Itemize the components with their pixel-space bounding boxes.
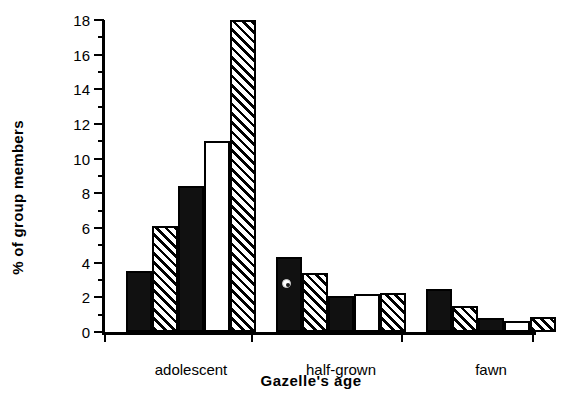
x-tick: [401, 333, 403, 342]
y-tick-major: [94, 88, 104, 90]
y-axis-title: % of group members: [0, 0, 34, 415]
y-tick-label: 16: [73, 46, 90, 63]
bar-adolescent-series-4: [204, 141, 230, 332]
bar-fawn-series-4: [504, 321, 530, 332]
y-tick-minor: [98, 175, 104, 177]
y-tick-major: [94, 331, 104, 333]
bar-fawn-series-1: [426, 289, 452, 332]
x-tick: [532, 333, 534, 342]
y-tick-minor: [98, 140, 104, 142]
y-tick-major: [94, 123, 104, 125]
y-tick-minor: [98, 314, 104, 316]
y-tick-major: [94, 19, 104, 21]
y-axis-title-text: % of group members: [9, 120, 26, 275]
y-tick-label: 18: [73, 12, 90, 29]
y-tick-label: 6: [82, 220, 90, 237]
y-tick-minor: [98, 279, 104, 281]
bar-half-grown-series-2: [302, 273, 328, 332]
y-tick-minor: [98, 71, 104, 73]
bar-fawn-series-2: [452, 306, 478, 332]
bar-adolescent-series-2: [152, 226, 178, 332]
y-tick-major: [94, 192, 104, 194]
x-tick: [251, 333, 253, 342]
y-tick-minor: [98, 36, 104, 38]
bar-chart-figure: % of group members 024681012141618 adole…: [0, 0, 572, 415]
y-tick-label: 2: [82, 289, 90, 306]
bar-adolescent-series-5: [230, 20, 256, 332]
bar-half-grown-series-4: [354, 294, 380, 332]
y-tick-minor: [98, 210, 104, 212]
y-tick-major: [94, 158, 104, 160]
bar-adolescent-series-1: [126, 271, 152, 332]
x-axis-title: Gazelle's age: [86, 372, 536, 389]
y-tick-label: 10: [73, 150, 90, 167]
y-tick-label: 0: [82, 324, 90, 341]
y-tick-major: [94, 296, 104, 298]
y-tick-major: [94, 54, 104, 56]
bar-fawn-series-3: [478, 318, 504, 332]
y-tick-label: 4: [82, 254, 90, 271]
bar-half-grown-series-1: [276, 257, 302, 332]
y-tick-major: [94, 227, 104, 229]
y-tick-minor: [98, 244, 104, 246]
y-tick-label: 8: [82, 185, 90, 202]
bar-half-grown-series-3: [328, 296, 354, 332]
y-tick-label: 14: [73, 81, 90, 98]
y-tick-label: 12: [73, 116, 90, 133]
x-axis-line: [102, 332, 536, 335]
y-tick-major: [94, 262, 104, 264]
plot-area: 024681012141618 adolescenthalf-grownfawn: [104, 20, 535, 332]
y-tick-minor: [98, 106, 104, 108]
bar-adolescent-series-3: [178, 186, 204, 332]
bar-fawn-series-5: [530, 317, 556, 332]
x-tick: [104, 333, 106, 342]
bar-half-grown-series-5: [380, 293, 406, 332]
